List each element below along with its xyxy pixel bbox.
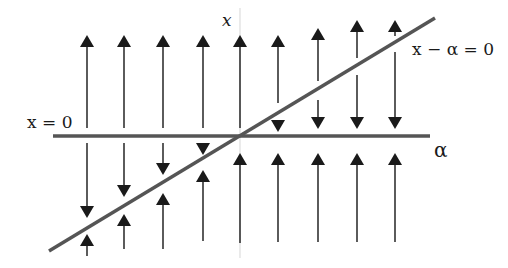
flow-arrow-down [80,143,94,218]
flow-arrow-up [80,35,94,128]
arrowhead-up-icon [350,153,364,165]
arrowhead-down-icon [117,185,131,197]
arrowhead-up-icon [311,28,325,40]
arrowhead-up-icon [388,20,402,32]
arrowhead-down-icon [388,117,402,129]
flow-arrow-down [311,100,325,129]
arrowhead-down-icon [350,117,364,129]
arrowhead-up-icon [156,35,170,47]
arrowhead-up-icon [117,214,131,226]
flow-arrow-up [350,20,364,58]
arrowhead-up-icon [117,35,131,47]
flow-arrow-up [311,28,325,81]
flow-arrow-up [388,20,402,36]
bifurcation-diagram: x α x = 0 x − α = 0 [0,0,508,268]
flow-arrow-down [388,52,402,129]
flow-arrow-up [117,35,131,128]
flow-arrow-down [156,143,170,175]
arrowhead-up-icon [80,35,94,47]
arrowhead-up-icon [233,153,247,165]
flow-arrow-up [196,35,210,128]
branch-label-x-minus-alpha: x − α = 0 [412,39,494,59]
flow-arrow-up [233,35,247,128]
arrowhead-up-icon [271,35,285,47]
arrowhead-down-icon [311,117,325,129]
flow-arrow-down [350,75,364,129]
flow-arrow-up [271,153,285,242]
arrowhead-up-icon [233,35,247,47]
arrowhead-up-icon [196,170,210,182]
arrowhead-up-icon [196,35,210,47]
arrowhead-up-icon [271,153,285,165]
branch-label-x-equals-zero: x = 0 [27,112,72,132]
arrowhead-down-icon [80,206,94,218]
flow-arrow-up [350,153,364,242]
arrowhead-up-icon [156,193,170,205]
arrowhead-down-icon [271,120,285,132]
flow-arrow-up [117,214,131,249]
flow-arrow-down [271,120,285,132]
flow-arrow-down [117,143,131,197]
flow-arrow-up [271,35,285,103]
flow-arrow-up [156,35,170,128]
flow-arrow-up [311,153,325,242]
arrowhead-up-icon [311,153,325,165]
flow-arrow-up [80,234,94,256]
flow-arrow-up [156,193,170,249]
flow-arrow-up [196,170,210,241]
arrowhead-down-icon [156,163,170,175]
horizontal-axis-label: α [434,138,448,162]
flow-arrow-up [233,153,247,243]
flow-arrow-up [388,153,402,242]
arrowhead-up-icon [80,234,94,246]
vertical-axis-label: x [222,10,232,30]
arrowhead-up-icon [350,20,364,32]
flow-arrows [80,20,402,256]
arrowhead-up-icon [388,153,402,165]
